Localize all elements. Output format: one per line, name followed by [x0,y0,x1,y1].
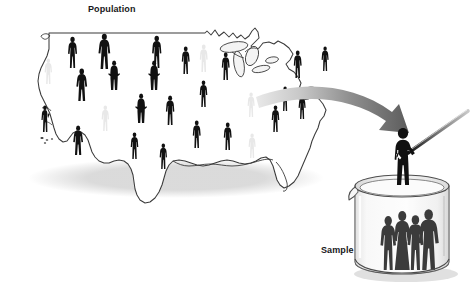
sample-beaker [349,175,458,282]
channel-islands [40,137,53,144]
sampler-group [395,110,468,185]
beaker-front-sheen [355,190,449,274]
fishing-rod-highlight [409,110,467,151]
sample-label: Sample [321,245,354,255]
sampling-diagram: Population Sample [0,0,474,287]
beaker-rim-inner [360,179,444,196]
fishing-rod [408,111,468,153]
person-silhouette [322,47,329,71]
population-person-8 [322,47,329,71]
population-label: Population [88,4,136,14]
diagram-canvas [0,0,474,287]
